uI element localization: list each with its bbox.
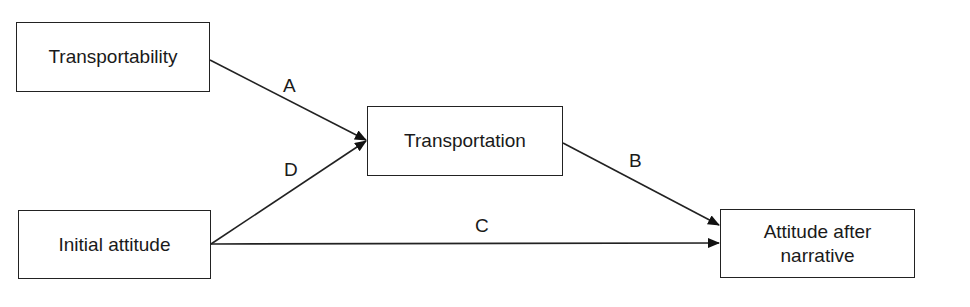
node-label-line1: Attitude after (764, 220, 872, 244)
node-label: Transportation (404, 129, 526, 153)
edge-label-c: C (475, 215, 489, 237)
edge-c (211, 243, 719, 244)
edge-a (210, 60, 366, 140)
node-transportation: Transportation (367, 106, 563, 176)
edge-label-d: D (284, 159, 298, 181)
node-label: Transportability (48, 45, 177, 69)
node-attitude-after-narrative: Attitude after narrative (720, 209, 915, 278)
node-label-line2: narrative (781, 244, 855, 268)
node-initial-attitude: Initial attitude (18, 210, 211, 279)
edge-d (211, 141, 366, 244)
edge-label-a: A (283, 75, 296, 97)
node-transportability: Transportability (16, 22, 210, 92)
edge-label-b: B (629, 150, 642, 172)
node-label: Initial attitude (59, 233, 171, 257)
